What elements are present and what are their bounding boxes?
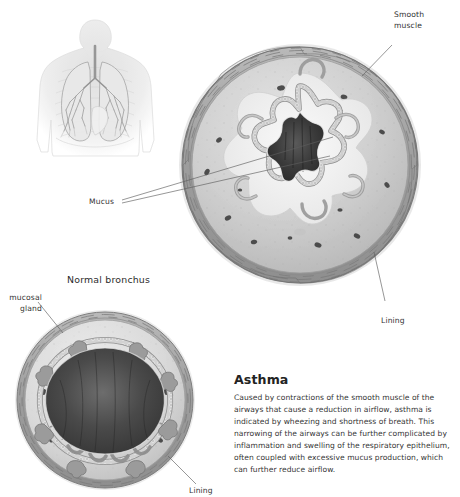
- label-smooth-muscle: Smooth muscle: [394, 10, 424, 31]
- normal-lumen: [46, 348, 165, 454]
- asthma-description-panel: Asthma Caused by contractions of the smo…: [234, 372, 450, 476]
- panel-heading: Asthma: [234, 372, 450, 387]
- panel-body-text: Caused by contractions of the smooth mus…: [234, 392, 450, 476]
- leader-lining-bottom: [168, 456, 196, 484]
- leader-smooth-muscle: [362, 45, 392, 76]
- torso-figure: [37, 20, 154, 156]
- normal-bronchus-figure: [15, 310, 195, 490]
- asthmatic-bronchus-figure: [179, 44, 421, 286]
- label-submucosal-gland: mucosal gland: [0, 293, 42, 314]
- label-mucus: Mucus: [89, 197, 114, 208]
- label-lining-top: Lining: [381, 316, 405, 327]
- leader-lining-top: [374, 252, 385, 301]
- normal-bronchus-title: Normal bronchus: [67, 274, 150, 285]
- label-lining-bottom: Lining: [189, 486, 213, 497]
